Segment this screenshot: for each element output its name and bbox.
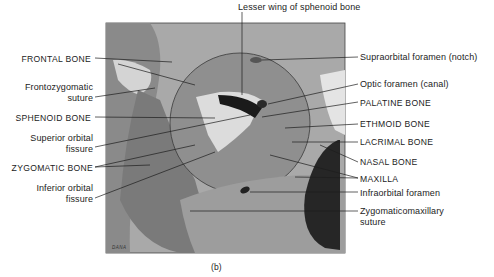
label-optic-foramen: Optic foramen (canal): [360, 79, 449, 89]
label-zygomaticomaxillary-line1: Zygomaticomaxillary: [360, 206, 444, 216]
label-lacrimal-bone: LACRIMAL BONE: [360, 137, 433, 147]
label-lesser-wing: Lesser wing of sphenoid bone: [238, 2, 360, 12]
label-zygomatic-bone: ZYGOMATIC BONE: [12, 163, 93, 173]
label-palatine-bone: PALATINE BONE: [360, 98, 431, 108]
label-maxilla: MAXILLA: [360, 174, 398, 184]
label-frontal-bone: FRONTAL BONE: [22, 54, 92, 64]
optic-foramen-shape: [257, 100, 267, 108]
label-ethmoid-bone: ETHMOID BONE: [360, 119, 430, 129]
label-zygomaticomaxillary-line2: suture: [360, 217, 386, 227]
label-frontozygomatic-line2: suture: [67, 93, 93, 103]
label-frontozygomatic-line1: Frontozygomatic: [25, 82, 93, 92]
label-supraorbital-foramen: Supraorbital foramen (notch): [360, 52, 477, 62]
label-inferior-orbital-line1: Inferior orbital: [36, 183, 93, 193]
label-inferior-orbital-line2: fissure: [66, 194, 93, 204]
label-nasal-bone: NASAL BONE: [360, 157, 418, 167]
label-infraorbital-foramen: Infraorbital foramen: [360, 188, 440, 198]
label-superior-orbital-line1: Superior orbital: [30, 133, 93, 143]
artist-signature: DANA: [112, 245, 127, 250]
supraorbital-notch-shape: [250, 57, 262, 63]
figure-caption: (b): [211, 262, 222, 272]
label-sphenoid-bone: SPHENOID BONE: [15, 113, 91, 123]
label-superior-orbital-line2: fissure: [66, 144, 93, 154]
